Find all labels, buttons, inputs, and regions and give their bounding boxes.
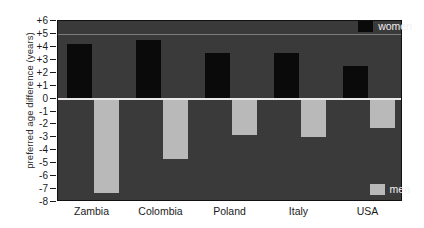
y-axis-tick bbox=[50, 85, 56, 86]
legend-item-men: men bbox=[370, 183, 410, 195]
legend-swatch-men bbox=[370, 184, 385, 195]
legend-label-women: women bbox=[378, 20, 412, 32]
y-axis-tick-label: +2 bbox=[22, 66, 48, 77]
x-axis-label-italy: Italy bbox=[289, 205, 308, 217]
y-axis-tick-label: 0 bbox=[22, 92, 48, 103]
y-axis-tick-label: +1 bbox=[22, 79, 48, 90]
bar-women-poland bbox=[205, 53, 230, 98]
y-axis-tick bbox=[50, 201, 56, 202]
y-axis-tick-label: -8 bbox=[22, 196, 48, 207]
x-axis-label-colombia: Colombia bbox=[138, 205, 182, 217]
chart-root: preferred age difference (years) +6+5+4+… bbox=[0, 0, 424, 228]
bar-men-poland bbox=[232, 99, 257, 135]
y-axis-tick-label: -4 bbox=[22, 144, 48, 155]
y-axis-tick-label: -6 bbox=[22, 170, 48, 181]
y-axis-tick-label: -7 bbox=[22, 183, 48, 194]
y-axis-tick bbox=[50, 20, 56, 21]
y-axis-tick-label: +5 bbox=[22, 27, 48, 38]
y-axis-tick bbox=[50, 123, 56, 124]
bar-women-zambia bbox=[67, 44, 92, 98]
bar-men-italy bbox=[301, 99, 326, 138]
y-axis-tick bbox=[50, 72, 56, 73]
x-axis-label-usa: USA bbox=[357, 205, 379, 217]
bar-men-colombia bbox=[163, 99, 188, 160]
plot-area bbox=[57, 20, 402, 201]
bar-women-italy bbox=[274, 53, 299, 98]
legend-item-women: women bbox=[358, 20, 412, 32]
y-axis-tick bbox=[50, 111, 56, 112]
y-axis-tick bbox=[50, 188, 56, 189]
zero-line bbox=[58, 98, 401, 100]
y-axis-tick bbox=[50, 46, 56, 47]
bar-men-usa bbox=[370, 99, 395, 129]
bar-men-zambia bbox=[94, 99, 119, 193]
y-axis-tick-label: -5 bbox=[22, 157, 48, 168]
x-axis-label-zambia: Zambia bbox=[74, 205, 109, 217]
bar-women-usa bbox=[343, 66, 368, 98]
y-axis-tick bbox=[50, 149, 56, 150]
y-axis-tick-label: +6 bbox=[22, 15, 48, 26]
bar-women-colombia bbox=[136, 40, 161, 98]
y-axis-tick bbox=[50, 136, 56, 137]
y-axis-tick bbox=[50, 175, 56, 176]
y-axis-tick-label: +3 bbox=[22, 53, 48, 64]
y-axis-tick-label: -2 bbox=[22, 118, 48, 129]
y-axis-tick bbox=[50, 162, 56, 163]
y-axis-tick bbox=[50, 98, 56, 99]
x-axis-label-poland: Poland bbox=[213, 205, 246, 217]
y-axis-tick bbox=[50, 33, 56, 34]
y-axis-tick-label: -3 bbox=[22, 131, 48, 142]
y-axis-tick-label: +4 bbox=[22, 40, 48, 51]
y-axis-tick bbox=[50, 59, 56, 60]
legend-swatch-women bbox=[358, 21, 373, 32]
y-axis-tick-label: -1 bbox=[22, 105, 48, 116]
grid-line bbox=[58, 34, 401, 35]
legend-label-men: men bbox=[390, 183, 410, 195]
